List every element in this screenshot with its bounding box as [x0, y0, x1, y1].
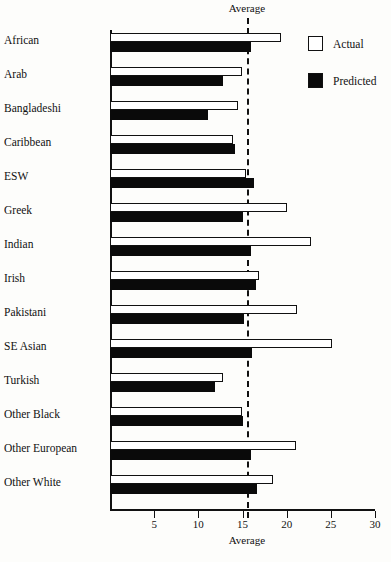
bar-predicted — [110, 348, 252, 358]
bar-actual — [110, 33, 281, 42]
bar-actual — [110, 101, 238, 110]
bar-predicted — [110, 450, 251, 460]
category-label: African — [4, 34, 106, 46]
category-label: Indian — [4, 238, 106, 250]
x-tick-label: 20 — [272, 518, 302, 530]
category-label: Turkish — [4, 374, 106, 386]
bar-actual — [110, 203, 287, 212]
category-label: Arab — [4, 68, 106, 80]
bar-chart: Average AfricanArabBangladeshiCaribbeanE… — [0, 0, 391, 562]
category-label: Other European — [4, 442, 106, 454]
x-tick-label: 10 — [183, 518, 213, 530]
bar-predicted — [110, 314, 244, 324]
bar-predicted — [110, 110, 208, 120]
x-tick — [287, 511, 288, 518]
x-tick-label: 25 — [316, 518, 346, 530]
bar-actual — [110, 475, 273, 484]
bar-predicted — [110, 484, 257, 494]
bar-actual — [110, 67, 242, 76]
legend-swatch-predicted-icon — [308, 73, 323, 88]
x-tick — [375, 511, 376, 518]
x-tick-label: 30 — [360, 518, 390, 530]
bar-actual — [110, 135, 233, 144]
bar-actual — [110, 271, 259, 280]
bar-predicted — [110, 416, 243, 426]
average-label-top: Average — [217, 2, 277, 14]
bar-actual — [110, 305, 297, 314]
bar-predicted — [110, 76, 223, 86]
x-tick — [198, 511, 199, 518]
bar-actual — [110, 169, 246, 178]
legend-label-actual: Actual — [333, 38, 364, 50]
category-label: Greek — [4, 204, 106, 216]
bar-predicted — [110, 178, 254, 188]
category-label: ESW — [4, 170, 106, 182]
bar-actual — [110, 237, 311, 246]
bar-actual — [110, 373, 223, 382]
bar-actual — [110, 339, 332, 348]
legend-label-predicted: Predicted — [333, 75, 376, 87]
category-label: Irish — [4, 272, 106, 284]
category-label: Other White — [4, 476, 106, 488]
bar-predicted — [110, 280, 256, 290]
legend-item-predicted: Predicted — [308, 73, 376, 88]
bar-predicted — [110, 382, 215, 392]
bar-predicted — [110, 42, 251, 52]
x-tick — [243, 511, 244, 518]
x-tick-label: 15 — [228, 518, 258, 530]
category-label: Other Black — [4, 408, 106, 420]
legend: Actual Predicted — [308, 36, 376, 110]
category-label: SE Asian — [4, 340, 106, 352]
legend-swatch-actual-icon — [308, 36, 323, 51]
average-label-bottom: Average — [217, 534, 277, 546]
x-tick-label: 5 — [139, 518, 169, 530]
x-tick — [154, 511, 155, 518]
x-tick — [331, 511, 332, 518]
bar-predicted — [110, 212, 243, 222]
bar-predicted — [110, 144, 235, 154]
bar-actual — [110, 441, 296, 450]
bar-predicted — [110, 246, 251, 256]
category-label: Caribbean — [4, 136, 106, 148]
category-label: Bangladeshi — [4, 102, 106, 114]
legend-item-actual: Actual — [308, 36, 376, 51]
category-label: Pakistani — [4, 306, 106, 318]
bar-actual — [110, 407, 242, 416]
